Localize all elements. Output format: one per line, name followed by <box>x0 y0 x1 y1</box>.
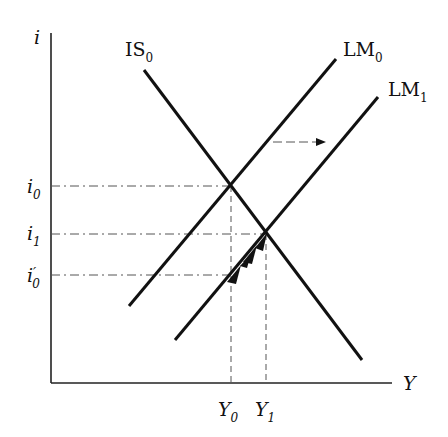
y1-tick-label: Y1 <box>255 400 275 419</box>
lm0-label: LM0 <box>343 40 383 59</box>
vertical-guides <box>231 186 266 383</box>
y0-tick-label: Y0 <box>218 400 238 419</box>
y-axis-label: i <box>34 28 40 47</box>
is0-curve <box>144 70 362 360</box>
lm1-label: LM1 <box>388 80 428 99</box>
lm1-curve <box>175 97 378 340</box>
is0-label: IS0 <box>125 40 153 59</box>
i0-tick-label: i0 <box>27 177 41 196</box>
i0-prime-tick-label: i′0 <box>27 266 40 285</box>
adjustment-arrows <box>227 233 267 284</box>
is-lm-diagram <box>0 0 448 437</box>
i1-tick-label: i1 <box>27 224 41 243</box>
x-axis-label: Y <box>403 374 416 393</box>
